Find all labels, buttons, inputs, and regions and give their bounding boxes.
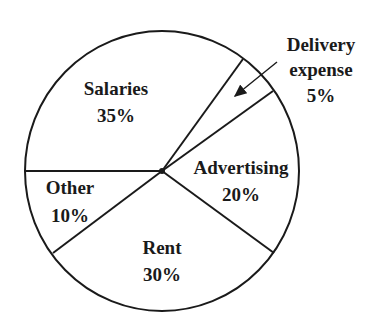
label-delivery-name2: expense (289, 59, 352, 80)
label-delivery-value: 5% (307, 85, 336, 106)
label-advertising-name: Advertising (194, 157, 290, 178)
label-salaries-name: Salaries (84, 78, 148, 99)
label-other-value: 10% (51, 205, 89, 226)
label-delivery-name1: Delivery (287, 34, 356, 55)
pie-center (159, 168, 165, 174)
label-salaries-value: 35% (97, 105, 135, 126)
label-other-name: Other (46, 177, 95, 198)
label-rent-value: 30% (143, 264, 181, 285)
label-rent-name: Rent (142, 237, 182, 258)
label-advertising-value: 20% (222, 184, 260, 205)
pie-chart: Salaries 35% Delivery expense 5% Adverti… (0, 0, 376, 333)
